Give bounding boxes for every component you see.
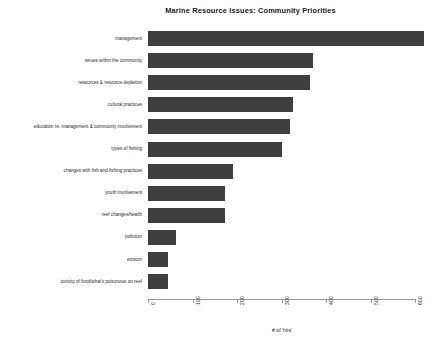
y-axis-tick-label: types of fishing <box>0 146 142 152</box>
x-axis-tick-label: 400 <box>328 296 334 305</box>
bar <box>148 186 225 201</box>
bar <box>148 97 293 112</box>
y-axis-tick-label: erosion <box>0 257 142 263</box>
x-axis-title: # of 'hits' <box>148 327 416 333</box>
bar <box>148 142 282 157</box>
x-axis-tick <box>282 299 283 303</box>
y-axis-tick-label: toxicity of food/what's poisonous on ree… <box>0 279 142 285</box>
y-axis-tick-label: reef changes/health <box>0 212 142 218</box>
bar <box>148 119 290 134</box>
bar <box>148 75 310 90</box>
x-axis-tick <box>148 299 149 303</box>
x-axis-tick-label: 300 <box>284 296 290 305</box>
y-axis-tick-label: changes with fish and fishing practices <box>0 168 142 174</box>
chart-title: Marine Resource Issues: Community Priori… <box>0 6 441 15</box>
y-axis-category-labels: managementissues within the communityres… <box>0 28 145 296</box>
x-axis-tick <box>415 299 416 303</box>
x-axis-tick-label: 200 <box>239 296 245 305</box>
y-axis-tick-label: education re. management & community inv… <box>0 124 142 130</box>
bar <box>148 53 313 68</box>
x-axis-tick <box>237 299 238 303</box>
x-axis-tick-label: 0 <box>150 302 156 305</box>
y-axis-tick-label: resources & resource depletion <box>0 80 142 86</box>
bar <box>148 208 225 223</box>
bar <box>148 252 168 267</box>
bar <box>148 274 168 289</box>
bar-chart: Marine Resource Issues: Community Priori… <box>0 0 441 348</box>
y-axis-tick-label: management <box>0 36 142 42</box>
y-axis-tick-label: youth involvement <box>0 190 142 196</box>
y-axis-tick-label: cultural practices <box>0 102 142 108</box>
y-axis-tick-label: issues within the community <box>0 58 142 64</box>
x-axis-tick-label: 600 <box>417 296 423 305</box>
bar <box>148 164 233 179</box>
x-axis-tick <box>193 299 194 303</box>
x-axis-tick <box>326 299 327 303</box>
x-axis-tick-label: 500 <box>373 296 379 305</box>
x-axis-tick <box>371 299 372 303</box>
plot-area <box>148 28 416 296</box>
y-axis-tick-label: pollution <box>0 234 142 240</box>
x-axis-tick-label: 100 <box>195 296 201 305</box>
bar <box>148 31 424 46</box>
bar <box>148 230 176 245</box>
